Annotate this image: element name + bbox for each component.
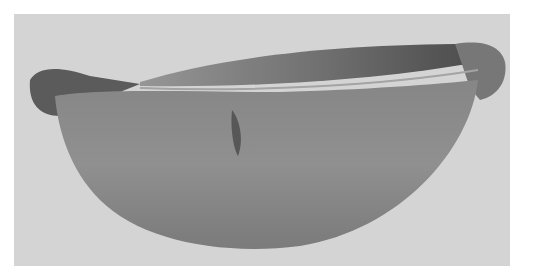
photograph xyxy=(0,0,536,280)
bowl-photo xyxy=(0,0,536,280)
grain-overlay xyxy=(14,14,510,266)
